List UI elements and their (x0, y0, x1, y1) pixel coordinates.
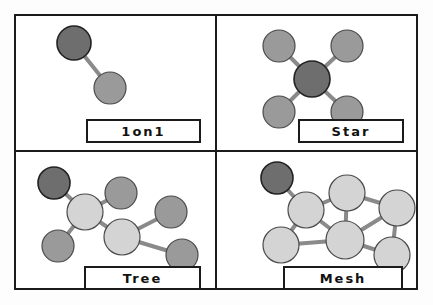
topology-node (331, 30, 363, 62)
topology-node (326, 221, 364, 259)
topology-node (94, 72, 126, 104)
caption-box-tree: Tree (84, 266, 201, 290)
caption-label-mesh: Mesh (320, 272, 367, 285)
topology-node (38, 167, 70, 199)
caption-label-tree: Tree (123, 272, 162, 285)
caption-box-1on1: 1on1 (86, 119, 201, 143)
nodes-layer (38, 26, 415, 273)
topology-node (42, 230, 74, 262)
caption-label-1on1: 1on1 (121, 125, 165, 138)
topology-node (379, 190, 415, 226)
topology-figure: 1on1 Star Tree Mesh (0, 0, 433, 305)
topology-graphics-layer (0, 0, 433, 305)
topology-svg (0, 0, 433, 305)
caption-box-star: Star (298, 119, 404, 143)
topology-node (104, 219, 140, 255)
topology-node (155, 196, 187, 228)
topology-node (294, 61, 330, 97)
topology-node (329, 175, 365, 211)
caption-label-star: Star (332, 125, 371, 138)
topology-node (57, 26, 91, 60)
topology-node (263, 227, 299, 263)
topology-node (263, 30, 295, 62)
topology-node (67, 194, 103, 230)
topology-node (288, 192, 324, 228)
topology-node (263, 96, 295, 128)
caption-box-mesh: Mesh (283, 266, 403, 290)
topology-node (261, 162, 293, 194)
topology-node (105, 177, 137, 209)
